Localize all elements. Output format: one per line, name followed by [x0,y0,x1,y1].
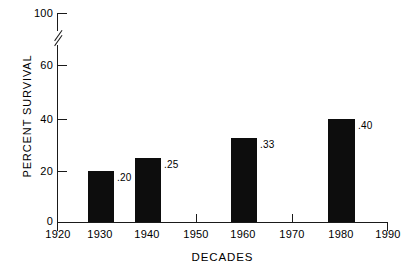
y-tick-label-60: 60 [13,60,53,71]
y-tick-mark-100 [58,13,67,14]
y-tick-label-40: 40 [13,114,53,125]
x-tick-label-1930: 1930 [75,228,125,240]
bar-value-label-1930: .20 [117,173,132,183]
x-axis-line [57,222,388,223]
x-tick-label-1960: 1960 [218,228,268,240]
x-tick-label-1940: 1940 [122,228,172,240]
y-axis-break-icon [51,30,65,46]
x-tick-label-1980: 1980 [316,228,366,240]
bar-value-label-1980: .40 [358,121,373,131]
bar-value-label-1960: .33 [260,140,275,150]
y-tick-label-20: 20 [13,166,53,177]
bar-1930 [88,171,114,222]
bar-chart: 100 60 40 20 0 1920 1930 1940 1950 1960 … [0,0,413,275]
bar-1980 [328,119,355,222]
y-axis-title: PERCENT SURVIVAL [21,31,33,201]
y-tick-mark-20 [58,171,67,172]
x-tick-label-1950: 1950 [171,228,221,240]
y-tick-mark-60 [58,65,67,66]
bar-1960 [231,138,257,222]
bar-value-label-1940: .25 [164,160,179,170]
bar-1940 [135,158,161,222]
y-tick-mark-40 [58,119,67,120]
x-tick-label-1990: 1990 [363,228,413,240]
y-tick-label-0: 0 [13,216,53,227]
x-tick-mark-1950 [196,214,197,222]
y-tick-label-100: 100 [13,8,53,19]
x-tick-mark-1970 [292,214,293,222]
x-axis-title: DECADES [57,251,388,263]
x-tick-label-1970: 1970 [267,228,317,240]
